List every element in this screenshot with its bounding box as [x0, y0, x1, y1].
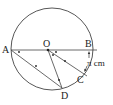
label-C: C — [77, 74, 84, 85]
equal-mark — [64, 60, 66, 62]
label-B: B — [85, 38, 92, 49]
center-point-O — [47, 49, 50, 52]
equal-mark — [35, 65, 37, 67]
angle-mark — [58, 79, 60, 81]
angle-mark — [52, 54, 54, 56]
arc-length-label: π cm — [87, 58, 105, 68]
label-D: D — [61, 90, 68, 101]
radius-OC — [48, 50, 87, 76]
angle-mark — [18, 51, 20, 53]
angle-mark — [55, 51, 57, 53]
geometry-diagram: A O B C D π cm — [0, 0, 113, 105]
label-O: O — [43, 38, 50, 49]
chord-AD — [11, 50, 62, 88]
label-A: A — [2, 44, 10, 55]
arrow-head-icon — [88, 51, 90, 54]
